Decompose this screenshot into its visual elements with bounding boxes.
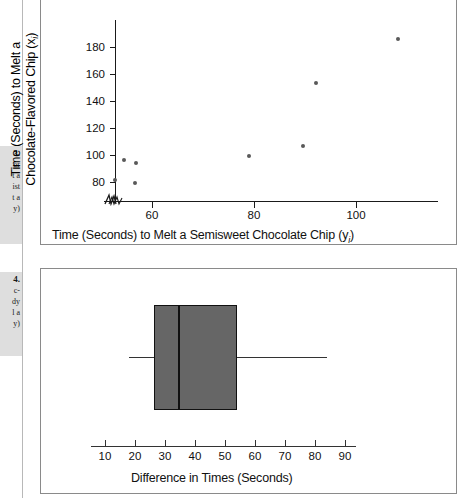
scatterplot-x-ticklabel-60: 60	[132, 209, 172, 221]
boxplot-x-ticklabel-90: 90	[325, 450, 365, 462]
boxplot-x-tick-30	[165, 440, 166, 447]
scatterplot-point	[134, 161, 138, 165]
boxplot-x-axis-title: Difference in Times (Seconds)	[131, 471, 292, 485]
boxplot-x-axis-line	[91, 446, 356, 447]
boxplot-x-tick-80	[315, 440, 316, 447]
scatterplot-x-ticklabel-100: 100	[336, 209, 376, 221]
scatterplot-x-axis-line	[104, 201, 438, 202]
scatterplot-y-axis-title: Time (Seconds) to Melt a Chocolate-Flavo…	[9, 29, 44, 189]
scatterplot-x-axis-title-tail: )	[350, 228, 354, 242]
scatterplot-y-axis-title-line1: Time (Seconds) to Melt a	[9, 42, 23, 176]
scatterplot-y-tick-80	[110, 182, 116, 183]
boxplot-figure: 10 20 30 40 50 60 70 80 90 Difference in…	[0, 268, 457, 498]
boxplot-x-tick-40	[195, 440, 196, 447]
scatterplot-y-tick-180	[110, 47, 116, 48]
scatterplot-point	[113, 178, 117, 182]
boxplot-x-tick-50	[225, 440, 226, 447]
boxplot-median-line	[178, 305, 180, 410]
scatterplot-point	[314, 81, 318, 85]
scatterplot-x-tick-60	[152, 202, 153, 208]
scatterplot-y-tick-140	[110, 101, 116, 102]
scatterplot-point	[396, 37, 400, 41]
scatterplot-x-tick-100	[356, 202, 357, 208]
scatterplot-figure: Time (Seconds) to Melt a Chocolate-Flavo…	[0, 0, 457, 250]
scatterplot-y-ticklabel-120: 120	[75, 122, 105, 134]
scatterplot-y-ticklabel-160: 160	[75, 68, 105, 80]
scatterplot-point	[122, 158, 126, 162]
boxplot-x-tick-10	[105, 440, 106, 447]
scatterplot-y-ticklabel-180: 180	[75, 41, 105, 53]
scatterplot-x-ticklabel-80: 80	[234, 209, 274, 221]
scatterplot-point	[133, 181, 137, 185]
scatterplot-point	[301, 144, 305, 148]
scatterplot-y-axis-title-tail: )	[24, 33, 38, 37]
scatterplot-point	[247, 154, 251, 158]
boxplot-box	[154, 305, 237, 410]
scatterplot-y-ticklabel-80: 80	[75, 176, 105, 188]
scatterplot-axis-break-icon	[103, 192, 127, 206]
boxplot-whisker-low	[129, 357, 154, 358]
boxplot-x-tick-90	[345, 440, 346, 447]
boxplot-x-tick-70	[285, 440, 286, 447]
scatterplot-y-axis-title-line2: Chocolate-Flavored Chip (x	[24, 39, 38, 186]
scatterplot-x-axis-title: Time (Seconds) to Melt a Semisweet Choco…	[52, 228, 354, 245]
scatterplot-y-tick-100	[110, 155, 116, 156]
boxplot-x-tick-20	[135, 440, 136, 447]
scatterplot-x-axis-title-text: Time (Seconds) to Melt a Semisweet Choco…	[52, 228, 348, 242]
scatterplot-x-tick-80	[254, 202, 255, 208]
scatterplot-y-ticklabel-140: 140	[75, 95, 105, 107]
scatterplot-y-tick-160	[110, 74, 116, 75]
scatterplot-y-tick-120	[110, 128, 116, 129]
boxplot-x-tick-60	[255, 440, 256, 447]
boxplot-whisker-high	[237, 357, 327, 358]
scatterplot-y-ticklabel-100: 100	[75, 149, 105, 161]
